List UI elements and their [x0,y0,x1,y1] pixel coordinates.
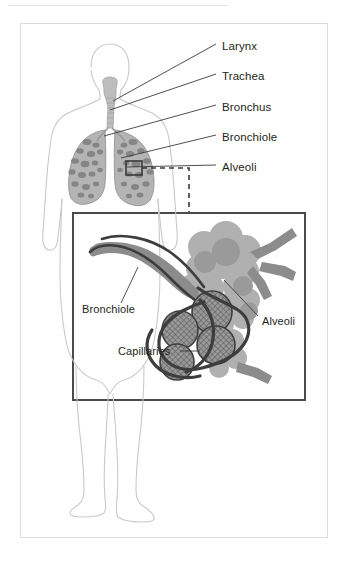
top-divider-rule [8,5,228,6]
label-alveoli: Alveoli [222,161,257,173]
label-larynx: Larynx [222,40,257,52]
diagram-page: Larynx Trachea Bronchus Bronchiole Alveo… [0,0,346,561]
detail-label-capillaries: Capillaries [118,345,170,357]
detail-label-bronchiole: Bronchiole [82,303,135,315]
label-trachea: Trachea [222,70,264,82]
detail-label-alveoli: Alveoli [262,315,295,327]
label-bronchus: Bronchus [222,101,271,113]
label-bronchiole: Bronchiole [222,131,277,143]
